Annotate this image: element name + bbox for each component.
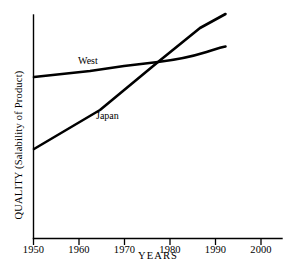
- x-axis-title: YEARS: [138, 250, 178, 261]
- y-axis-title: QUALITY (Salability of Product): [13, 71, 24, 220]
- series-label-japan: Japan: [96, 110, 119, 121]
- quality-vs-years-chart: 1950 1960 1970 1980 1990 2000 YEARS QUAL…: [0, 0, 307, 278]
- series-label-west: West: [78, 55, 98, 66]
- x-tick-label-1990: 1990: [205, 244, 226, 255]
- x-tick-label-1970: 1970: [114, 244, 135, 255]
- x-tick-label-2000: 2000: [250, 244, 271, 255]
- chart-plot-area: [0, 0, 307, 278]
- x-tick-label-1950: 1950: [23, 244, 44, 255]
- x-tick-label-1960: 1960: [68, 244, 89, 255]
- series-line-west: [34, 47, 226, 78]
- series-line-japan: [34, 14, 226, 149]
